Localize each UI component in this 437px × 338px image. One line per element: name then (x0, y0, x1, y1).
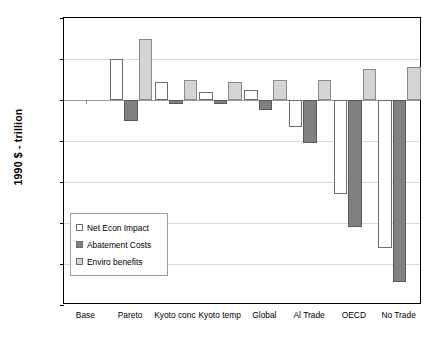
legend-swatch-icon (76, 241, 83, 248)
bar-al-trade-abatement-costs (303, 100, 317, 143)
bar-kyoto-conc-abatement-costs (169, 100, 183, 104)
y-tick-mark (60, 18, 64, 19)
bar-global-enviro-benefits (273, 80, 287, 101)
bar-no-trade-enviro-benefits (407, 67, 421, 100)
legend-label: Enviro benefits (87, 257, 142, 267)
bar-oecd-abatement-costs (348, 100, 362, 227)
bar-no-trade-net-econ-impact (378, 100, 392, 248)
y-tick-mark (60, 305, 64, 306)
bar-global-net-econ-impact (244, 90, 258, 100)
y-tick-mark (60, 100, 64, 101)
bar-kyoto-conc-enviro-benefits (184, 80, 198, 101)
x-category-label: Base (76, 310, 95, 320)
x-category-label: No Trade (381, 310, 415, 320)
x-category-label: Pareto (118, 310, 143, 320)
x-category-label: Global (252, 310, 276, 320)
chart-legend: Net Econ ImpactAbatement CostsEnviro ben… (70, 213, 168, 276)
bar-oecd-enviro-benefits (363, 69, 377, 100)
legend-item-enviro-benefits: Enviro benefits (76, 253, 162, 270)
bar-kyoto-conc-net-econ-impact (155, 82, 169, 100)
bar-pareto-net-econ-impact (110, 59, 124, 100)
x-category-label: Kyoto temp (198, 310, 240, 320)
legend-label: Abatement Costs (87, 240, 151, 250)
x-tick-mark (86, 100, 87, 104)
bar-global-abatement-costs (259, 100, 273, 110)
zero-axis-line (64, 100, 420, 101)
legend-label: Net Econ Impact (87, 223, 149, 233)
y-tick-mark (60, 59, 64, 60)
chart-container: 1990 $ - trillion Net Econ ImpactAbateme… (0, 0, 437, 338)
bar-al-trade-net-econ-impact (289, 100, 303, 127)
legend-item-abatement-costs: Abatement Costs (76, 236, 162, 253)
y-axis-title: 1990 $ - trillion (12, 82, 24, 212)
y-tick-mark (60, 264, 64, 265)
bar-oecd-net-econ-impact (334, 100, 348, 194)
bar-kyoto-temp-enviro-benefits (228, 82, 242, 100)
bar-kyoto-temp-net-econ-impact (199, 92, 213, 100)
y-tick-mark (60, 141, 64, 142)
legend-swatch-icon (76, 224, 83, 231)
y-tick-mark (60, 223, 64, 224)
x-category-label: Al Trade (294, 310, 325, 320)
y-tick-mark (60, 182, 64, 183)
legend-item-net-econ-impact: Net Econ Impact (76, 219, 162, 236)
bar-no-trade-abatement-costs (393, 100, 407, 282)
bar-pareto-enviro-benefits (139, 39, 153, 101)
bar-pareto-abatement-costs (124, 100, 138, 121)
legend-swatch-icon (76, 258, 83, 265)
bar-al-trade-enviro-benefits (318, 80, 332, 101)
x-category-label: Kyoto conc (154, 310, 195, 320)
x-category-label: OECD (342, 310, 366, 320)
gridline (64, 182, 420, 183)
gridline (64, 141, 420, 142)
bar-kyoto-temp-abatement-costs (214, 100, 228, 104)
